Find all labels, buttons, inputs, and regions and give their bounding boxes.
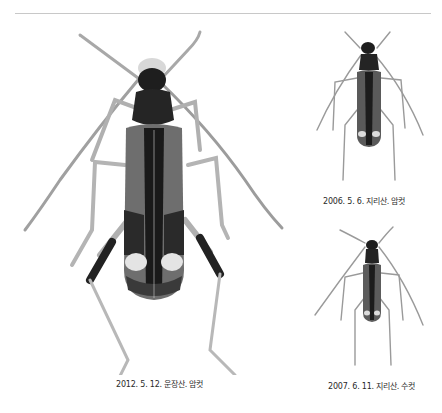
specimen-main-caption: 2012. 5. 12. 운장산. 암컷 xyxy=(116,378,203,389)
beetle-small-male-icon xyxy=(305,225,435,375)
beetle-small-female-icon xyxy=(305,30,435,190)
top-divider-rule xyxy=(15,13,431,14)
specimen-top-right-beetle xyxy=(305,30,435,190)
specimen-bottom-right-beetle xyxy=(305,225,435,375)
specimen-top-right-caption: 2006. 5. 6. 지리산. 암컷 xyxy=(323,195,405,206)
specimen-bottom-right-caption: 2007. 6. 11. 지리산. 수컷 xyxy=(328,380,415,391)
beetle-large-icon xyxy=(20,30,290,375)
specimen-main-beetle xyxy=(20,30,290,375)
